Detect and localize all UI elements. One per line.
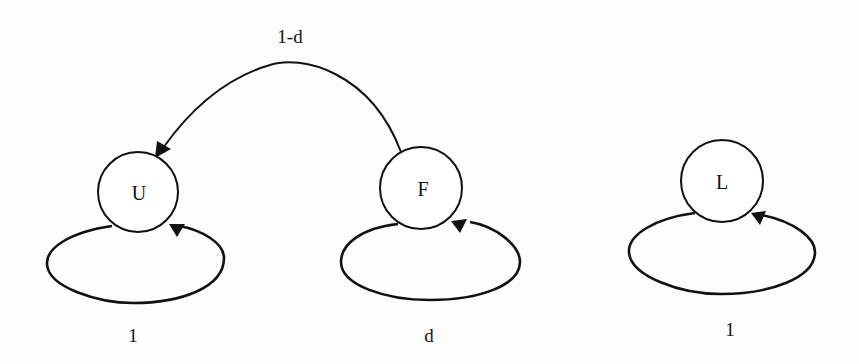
edge-label-f-to-u: 1-d bbox=[277, 26, 303, 47]
arrowhead-icon bbox=[751, 211, 766, 225]
loop-path-l bbox=[629, 213, 815, 294]
arrowhead-icon bbox=[155, 141, 171, 158]
arrowhead-icon bbox=[169, 224, 185, 237]
self-loop-l: 1 bbox=[629, 211, 815, 340]
node-label-f: F bbox=[417, 178, 428, 200]
self-loop-u: 1 bbox=[47, 224, 224, 346]
node-label-u: U bbox=[132, 182, 147, 204]
node-l: L bbox=[681, 140, 763, 222]
node-u: U bbox=[98, 152, 178, 232]
edge-label-l-loop: 1 bbox=[725, 319, 735, 340]
arc-f-to-u bbox=[163, 62, 401, 152]
node-f: F bbox=[380, 147, 462, 229]
node-label-l: L bbox=[716, 171, 728, 193]
edge-f-to-u: 1-d bbox=[155, 26, 401, 158]
edge-label-f-loop: d bbox=[424, 325, 434, 346]
state-diagram: 1-d 1 d 1 U F L bbox=[0, 0, 859, 364]
loop-path-f bbox=[341, 222, 520, 300]
self-loop-f: d bbox=[341, 219, 520, 346]
loop-path-u bbox=[47, 226, 224, 303]
edge-label-u-loop: 1 bbox=[128, 325, 138, 346]
arrowhead-icon bbox=[451, 219, 467, 233]
